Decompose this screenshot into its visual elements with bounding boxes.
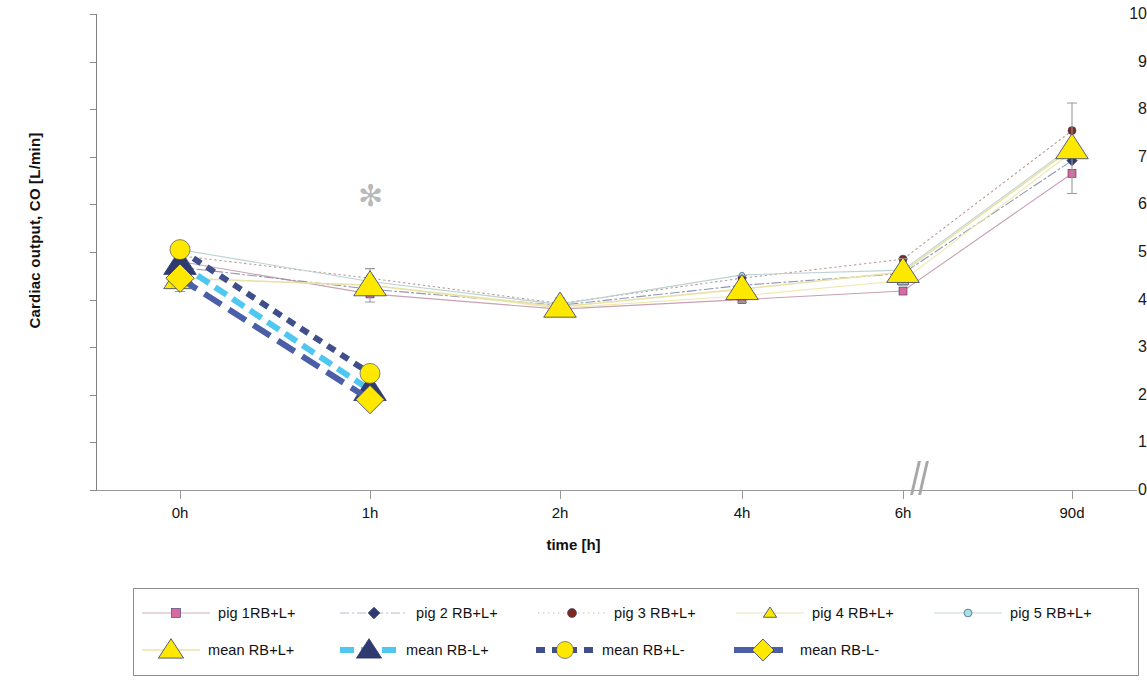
legend-item[interactable]: pig 4 RB+L+ (734, 596, 894, 630)
data-point-marker (738, 296, 746, 304)
data-point-marker (568, 609, 577, 618)
legend-row-means: mean RB+L+mean RB-L+mean RB+L-mean RB-L- (134, 633, 1138, 667)
x-tick-mark (1072, 490, 1073, 499)
significance-asterisk-annotation: ✻ (358, 181, 383, 211)
series-pig-2-rb-l- (175, 155, 1077, 310)
data-point-marker (164, 264, 197, 289)
data-point-marker (554, 303, 566, 312)
x-tick-mark (903, 490, 904, 499)
y-tick-label: 10 (1113, 5, 1147, 23)
data-point-marker (898, 268, 908, 278)
data-point-marker (763, 607, 776, 617)
chart-plot-svg (0, 0, 1147, 683)
y-tick-label: 4 (1113, 291, 1147, 309)
y-tick-label: 6 (1113, 195, 1147, 213)
y-tick-mark (90, 62, 97, 63)
y-tick-mark (90, 204, 97, 205)
legend-marker-sample (140, 601, 212, 625)
legend-item[interactable]: pig 2 RB+L+ (338, 596, 498, 630)
data-point-marker (557, 642, 574, 659)
y-tick-mark (90, 442, 97, 443)
x-axis-line (96, 490, 1137, 491)
legend-item[interactable]: mean RB-L- (732, 633, 879, 667)
x-tick-label: 6h (895, 504, 912, 521)
x-tick-label: 90d (1059, 504, 1084, 521)
data-point-marker (354, 375, 387, 400)
data-point-marker (1066, 147, 1078, 156)
y-tick-mark (90, 14, 97, 15)
data-point-marker (175, 262, 185, 272)
axis-break-marker (908, 461, 934, 495)
y-tick-label: 2 (1113, 386, 1147, 404)
x-tick-mark (370, 490, 371, 499)
data-point-marker (544, 292, 577, 317)
series-line (180, 146, 1072, 304)
data-point-marker (364, 280, 376, 289)
data-point-marker (356, 639, 381, 658)
error-bar (1067, 103, 1077, 193)
data-point-marker (366, 274, 374, 282)
y-tick-label: 5 (1113, 243, 1147, 261)
data-point-marker (164, 249, 197, 274)
legend-item-label: mean RB-L- (794, 642, 879, 658)
data-point-marker (900, 267, 905, 272)
legend-marker-sample (140, 638, 202, 662)
data-point-marker (170, 240, 190, 260)
data-point-marker (1068, 169, 1076, 177)
data-point-marker (356, 385, 384, 413)
legend-marker-sample (734, 601, 806, 625)
data-point-marker (366, 290, 374, 298)
legend-item-label: mean RB+L- (596, 642, 685, 658)
legend-item-label: pig 2 RB+L+ (410, 605, 498, 621)
data-point-marker (899, 287, 907, 295)
data-point-marker (1069, 144, 1074, 149)
data-point-marker (172, 609, 181, 618)
x-tick-label: 2h (552, 504, 569, 521)
series-pig-5-rb-l- (177, 144, 1074, 307)
y-tick-mark (90, 157, 97, 158)
data-point-marker (899, 255, 907, 263)
legend-marker-sample (732, 638, 794, 662)
y-tick-mark (90, 109, 97, 110)
data-point-marker (557, 302, 562, 307)
data-point-marker (1067, 155, 1077, 165)
data-point-marker (166, 264, 194, 292)
legend-item[interactable]: mean RB+L- (534, 633, 685, 667)
legend-item-label: pig 3 RB+L+ (608, 605, 696, 621)
series-line (180, 173, 1072, 309)
x-tick-label: 4h (734, 504, 751, 521)
series-line (180, 250, 370, 374)
legend-item[interactable]: mean RB+L+ (140, 633, 294, 667)
data-point-marker (556, 299, 564, 307)
legend-item[interactable]: pig 3 RB+L+ (536, 596, 696, 630)
y-axis-title: Cardiac output, CO [L/min] (26, 101, 43, 361)
series-line (180, 131, 1072, 304)
x-tick-mark (742, 490, 743, 499)
chart-legend: pig 1RB+L+pig 2 RB+L+pig 3 RB+L+pig 4 RB… (133, 588, 1139, 676)
legend-item[interactable]: mean RB-L+ (338, 633, 489, 667)
y-tick-mark (90, 490, 97, 491)
legend-item-label: pig 5 RB+L+ (1004, 605, 1092, 621)
data-point-marker (177, 247, 182, 252)
legend-item[interactable]: pig 1RB+L+ (140, 596, 296, 630)
series-line (180, 152, 1072, 308)
y-tick-label: 7 (1113, 148, 1147, 166)
legend-item-label: pig 4 RB+L+ (806, 605, 894, 621)
y-tick-mark (90, 252, 97, 253)
legend-item[interactable]: pig 5 RB+L+ (932, 596, 1092, 630)
data-point-marker (739, 272, 744, 277)
series-pig-1rb-l- (176, 169, 1076, 313)
chart-figure: 109876543210 Cardiac output, CO [L/min] … (0, 0, 1147, 683)
error-bar (365, 269, 375, 302)
series-line (180, 278, 370, 399)
data-point-marker (555, 300, 565, 310)
data-point-marker (354, 271, 387, 296)
error-bar (175, 265, 185, 292)
error-bar (555, 298, 565, 315)
legend-row-pigs: pig 1RB+L+pig 2 RB+L+pig 3 RB+L+pig 4 RB… (134, 596, 1138, 630)
legend-marker-sample (338, 638, 400, 662)
series-mean-rb-l- (166, 264, 384, 414)
x-tick-mark (180, 490, 181, 499)
data-point-marker (1068, 127, 1076, 135)
series-line (180, 161, 1072, 306)
